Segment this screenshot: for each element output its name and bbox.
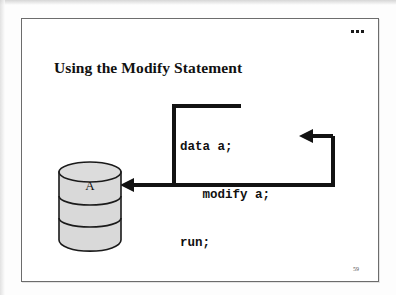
code-line-run: run; bbox=[180, 235, 270, 251]
dataset-label: A bbox=[85, 178, 95, 193]
dataset-cylinder: A bbox=[59, 162, 121, 251]
code-line-modify: modify a; bbox=[180, 187, 270, 203]
code-line-data: data a; bbox=[180, 139, 270, 155]
page-number: 59 bbox=[353, 266, 359, 272]
slide-canvas: Using the Modify Statement bbox=[21, 18, 379, 282]
code-block: data a; modify a; run; bbox=[180, 107, 270, 283]
scanned-page-background: Using the Modify Statement bbox=[0, 0, 396, 295]
